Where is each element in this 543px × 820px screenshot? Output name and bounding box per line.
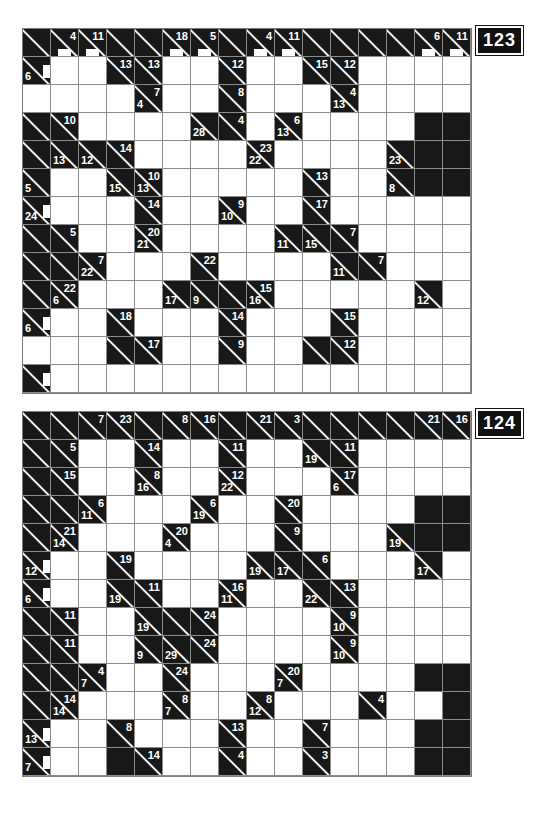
answer-cell[interactable] — [443, 309, 471, 337]
answer-cell[interactable] — [247, 85, 275, 113]
answer-cell[interactable] — [443, 440, 471, 468]
answer-cell[interactable] — [359, 85, 387, 113]
answer-cell[interactable] — [359, 337, 387, 365]
answer-cell[interactable] — [331, 524, 359, 552]
answer-cell[interactable] — [135, 113, 163, 141]
answer-cell[interactable] — [415, 309, 443, 337]
answer-cell[interactable] — [163, 496, 191, 524]
answer-cell[interactable] — [247, 524, 275, 552]
answer-cell[interactable] — [247, 253, 275, 281]
answer-cell[interactable] — [303, 113, 331, 141]
answer-cell[interactable] — [247, 468, 275, 496]
answer-cell[interactable] — [415, 225, 443, 253]
answer-cell[interactable] — [51, 748, 79, 776]
answer-cell[interactable] — [303, 309, 331, 337]
answer-cell[interactable] — [219, 225, 247, 253]
answer-cell[interactable] — [443, 337, 471, 365]
answer-cell[interactable] — [191, 468, 219, 496]
answer-cell[interactable] — [443, 225, 471, 253]
answer-cell[interactable] — [219, 141, 247, 169]
answer-cell[interactable] — [275, 468, 303, 496]
answer-cell[interactable] — [163, 748, 191, 776]
answer-cell[interactable] — [359, 365, 387, 393]
answer-cell[interactable] — [331, 748, 359, 776]
answer-cell[interactable] — [359, 281, 387, 309]
answer-cell[interactable] — [387, 281, 415, 309]
answer-cell[interactable] — [275, 253, 303, 281]
answer-cell[interactable] — [359, 748, 387, 776]
answer-cell[interactable] — [135, 552, 163, 580]
answer-cell[interactable] — [219, 636, 247, 664]
answer-cell[interactable] — [359, 468, 387, 496]
answer-cell[interactable] — [331, 664, 359, 692]
kakuro-grid-124[interactable]: 7238162132116514111911158161222176611619… — [22, 411, 472, 777]
answer-cell[interactable] — [359, 169, 387, 197]
answer-cell[interactable] — [107, 524, 135, 552]
answer-cell[interactable] — [275, 337, 303, 365]
answer-cell[interactable] — [443, 636, 471, 664]
answer-cell[interactable] — [275, 309, 303, 337]
answer-cell[interactable] — [415, 468, 443, 496]
answer-cell[interactable] — [387, 309, 415, 337]
answer-cell[interactable] — [247, 496, 275, 524]
answer-cell[interactable] — [443, 552, 471, 580]
answer-cell[interactable] — [107, 692, 135, 720]
answer-cell[interactable] — [303, 692, 331, 720]
answer-cell[interactable] — [387, 225, 415, 253]
answer-cell[interactable] — [387, 692, 415, 720]
answer-cell[interactable] — [191, 440, 219, 468]
answer-cell[interactable] — [247, 169, 275, 197]
answer-cell[interactable] — [387, 113, 415, 141]
answer-cell[interactable] — [191, 169, 219, 197]
answer-cell[interactable] — [303, 664, 331, 692]
answer-cell[interactable] — [163, 337, 191, 365]
answer-cell[interactable] — [51, 552, 79, 580]
answer-cell[interactable] — [331, 169, 359, 197]
answer-cell[interactable] — [275, 281, 303, 309]
answer-cell[interactable] — [275, 365, 303, 393]
answer-cell[interactable] — [51, 197, 79, 225]
answer-cell[interactable] — [331, 496, 359, 524]
answer-cell[interactable] — [107, 281, 135, 309]
answer-cell[interactable] — [387, 496, 415, 524]
answer-cell[interactable] — [219, 552, 247, 580]
answer-cell[interactable] — [191, 580, 219, 608]
answer-cell[interactable] — [247, 197, 275, 225]
answer-cell[interactable] — [247, 748, 275, 776]
answer-cell[interactable] — [359, 225, 387, 253]
answer-cell[interactable] — [303, 281, 331, 309]
answer-cell[interactable] — [303, 141, 331, 169]
answer-cell[interactable] — [247, 720, 275, 748]
answer-cell[interactable] — [443, 57, 471, 85]
answer-cell[interactable] — [51, 337, 79, 365]
answer-cell[interactable] — [191, 524, 219, 552]
answer-cell[interactable] — [51, 85, 79, 113]
answer-cell[interactable] — [359, 57, 387, 85]
answer-cell[interactable] — [387, 552, 415, 580]
answer-cell[interactable] — [79, 692, 107, 720]
answer-cell[interactable] — [163, 197, 191, 225]
answer-cell[interactable] — [135, 720, 163, 748]
answer-cell[interactable] — [359, 496, 387, 524]
answer-cell[interactable] — [387, 748, 415, 776]
answer-cell[interactable] — [79, 748, 107, 776]
answer-cell[interactable] — [247, 225, 275, 253]
answer-cell[interactable] — [79, 85, 107, 113]
answer-cell[interactable] — [51, 580, 79, 608]
answer-cell[interactable] — [331, 281, 359, 309]
answer-cell[interactable] — [275, 748, 303, 776]
answer-cell[interactable] — [191, 57, 219, 85]
answer-cell[interactable] — [107, 365, 135, 393]
answer-cell[interactable] — [163, 309, 191, 337]
answer-cell[interactable] — [107, 225, 135, 253]
answer-cell[interactable] — [359, 580, 387, 608]
answer-cell[interactable] — [275, 169, 303, 197]
answer-cell[interactable] — [219, 692, 247, 720]
answer-cell[interactable] — [359, 664, 387, 692]
answer-cell[interactable] — [23, 337, 51, 365]
answer-cell[interactable] — [415, 85, 443, 113]
answer-cell[interactable] — [443, 365, 471, 393]
answer-cell[interactable] — [163, 365, 191, 393]
answer-cell[interactable] — [387, 57, 415, 85]
answer-cell[interactable] — [191, 225, 219, 253]
